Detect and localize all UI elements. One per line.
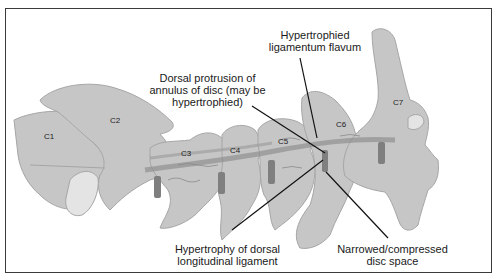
vertebra-label-c7: C7 bbox=[393, 98, 403, 107]
vertebra-label-c3: C3 bbox=[181, 149, 191, 158]
annotation-longitudinal-ligament: Hypertrophy of dorsal longitudinal ligam… bbox=[160, 243, 295, 267]
vertebra-label-c5: C5 bbox=[278, 137, 288, 146]
disc-c4-c5 bbox=[268, 160, 275, 184]
annotation-disc-space: Narrowed/compressed disc space bbox=[330, 243, 455, 267]
annotation-annulus: Dorsal protrusion of annulus of disc (ma… bbox=[140, 72, 275, 108]
vertebra-label-c1: C1 bbox=[44, 132, 54, 141]
cervical-spine-illustration bbox=[0, 0, 499, 280]
vertebra-label-c2: C2 bbox=[110, 116, 120, 125]
vertebra-c7-shape bbox=[343, 29, 438, 230]
vertebra-label-c6: C6 bbox=[336, 120, 346, 129]
annotation-ligamentum-flavum: Hypertrophied ligamentum flavum bbox=[255, 29, 375, 53]
disc-c2-c3 bbox=[154, 176, 161, 198]
disc-c6-c7 bbox=[378, 142, 385, 164]
vertebra-label-c4: C4 bbox=[230, 146, 240, 155]
vertebra-c3-shape bbox=[150, 133, 229, 228]
disc-c3-c4 bbox=[218, 172, 225, 194]
disc-c5-c6 bbox=[322, 150, 328, 172]
